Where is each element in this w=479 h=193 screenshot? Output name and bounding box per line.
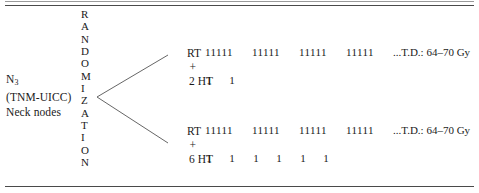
ht-mark: 1 xyxy=(205,74,213,86)
randomized-trial-schema-figure: N3 (TNM-UICC) Neck nodes R A N D O M I Z… xyxy=(0,0,479,193)
randomization-column: R A N D O M I Z A T I O N xyxy=(81,8,97,168)
site-label: Neck nodes xyxy=(6,105,72,120)
upper-arm-plus-operator: + xyxy=(171,60,213,74)
branch-line-upper xyxy=(97,55,168,97)
classification-label: (TNM-UICC) xyxy=(6,90,72,105)
ht-mark: 1 xyxy=(228,74,236,86)
randomization-letter: M xyxy=(81,70,97,82)
stage-subscript: 3 xyxy=(14,78,18,87)
upper-arm-fraction-groups: 11111111111111111111...T.D.: 64–70 Gy xyxy=(205,46,470,58)
randomization-letter: O xyxy=(81,57,97,69)
branch-line-lower xyxy=(97,97,168,143)
lower-arm-plus-operator: + xyxy=(171,138,213,152)
randomization-letter: R xyxy=(81,8,97,20)
top-thin-rule xyxy=(5,1,474,2)
fraction-group: 11111 xyxy=(252,124,299,136)
randomization-letter: I xyxy=(81,82,97,94)
randomization-letter: N xyxy=(81,156,97,168)
randomization-letter: A xyxy=(81,107,97,119)
randomization-letter: T xyxy=(81,119,97,131)
randomization-letter: O xyxy=(81,144,97,156)
stage-label: N3 xyxy=(6,72,72,90)
fraction-group: 11111 xyxy=(205,124,252,136)
randomization-letter: Z xyxy=(81,94,97,106)
randomization-letter: A xyxy=(81,20,97,32)
ht-mark: 1 xyxy=(275,152,283,164)
fraction-group: 11111 xyxy=(346,124,393,136)
ht-mark: 1 xyxy=(299,152,307,164)
randomization-letter: N xyxy=(81,33,97,45)
fraction-group: 11111 xyxy=(205,46,252,58)
patient-group-label: N3 (TNM-UICC) Neck nodes xyxy=(6,72,72,120)
ht-mark: 1 xyxy=(252,152,260,164)
upper-arm-total-dose: ...T.D.: 64–70 Gy xyxy=(393,46,470,58)
fraction-group: 11111 xyxy=(346,46,393,58)
lower-arm-total-dose: ...T.D.: 64–70 Gy xyxy=(393,124,470,136)
fraction-group: 11111 xyxy=(299,46,346,58)
randomization-letter: D xyxy=(81,45,97,57)
fraction-group: 11111 xyxy=(252,46,299,58)
bottom-rule xyxy=(5,186,474,187)
ht-mark: 1 xyxy=(322,152,330,164)
lower-arm-fraction-groups: 11111111111111111111...T.D.: 64–70 Gy xyxy=(205,124,470,136)
randomization-letter: I xyxy=(81,131,97,143)
top-rule xyxy=(5,5,474,6)
ht-mark: 1 xyxy=(205,152,213,164)
fraction-group: 11111 xyxy=(299,124,346,136)
ht-mark: 1 xyxy=(228,152,236,164)
